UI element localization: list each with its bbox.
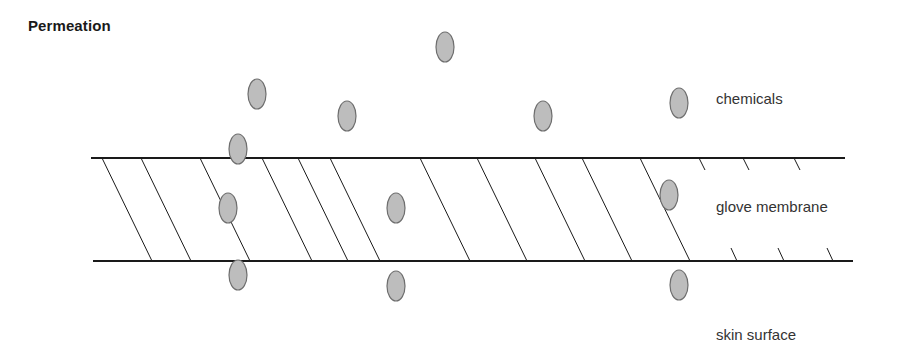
chemical-particle: [670, 270, 688, 300]
hatch-tick-top: [699, 158, 705, 170]
hatch-line: [262, 158, 312, 261]
hatch-line: [141, 158, 191, 261]
chemical-particle: [248, 79, 266, 109]
hatch-line: [102, 158, 152, 261]
chemical-particle: [229, 260, 247, 290]
hatch-tick-bottom: [827, 248, 833, 261]
hatch-line: [582, 158, 632, 261]
hatch-tick-top: [794, 158, 800, 170]
hatch-line: [640, 158, 690, 261]
chemical-particle: [670, 88, 688, 118]
chemical-particle: [338, 101, 356, 131]
hatch-tick-bottom: [778, 248, 784, 261]
chemical-particle: [229, 134, 247, 164]
hatch-line: [535, 158, 585, 261]
chemical-particle: [436, 32, 454, 62]
label-skin-surface: skin surface: [716, 326, 796, 342]
hatch-tick-top: [743, 158, 749, 170]
label-glove-membrane: glove membrane: [716, 198, 828, 215]
hatch-line: [330, 158, 380, 261]
hatch-tick-bottom: [731, 248, 737, 261]
chemical-particle: [660, 180, 678, 210]
hatch-line: [420, 158, 470, 261]
chemical-particle: [387, 271, 405, 301]
chemical-particle: [387, 193, 405, 223]
chemical-particle: [219, 193, 237, 223]
label-chemicals: chemicals: [716, 90, 783, 107]
permeation-diagram: [0, 0, 905, 342]
hatch-line: [298, 158, 348, 261]
hatch-line: [477, 158, 527, 261]
chemical-particle: [534, 101, 552, 131]
